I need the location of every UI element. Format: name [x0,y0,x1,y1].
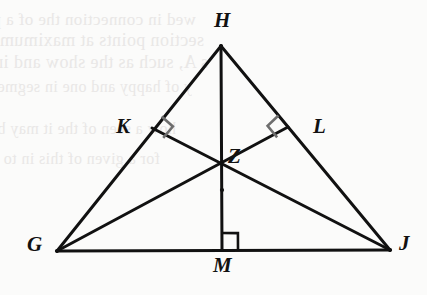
segment-HM [221,46,222,250]
vertex-label-m: M [213,255,232,276]
segment-GL [57,127,288,251]
vertex-label-j: J [399,233,410,254]
vertex-label-z: Z [228,146,241,167]
vertex-label-l: L [313,116,326,137]
segment-GH [57,46,221,251]
vertex-label-k: K [116,116,130,137]
segments-group [57,46,390,251]
vertex-point-h [219,44,223,48]
segment-GJ [57,250,390,251]
right-angle-M [222,233,238,249]
vertex-points-group [55,44,392,253]
vertex-point-g [55,249,59,253]
vertex-label-g: G [27,234,42,255]
triangle-geometry-figure [0,0,427,295]
diagram-page: wed in connection the of a perimetersect… [0,0,427,295]
vertex-label-h: H [214,10,230,31]
vertex-point-j [388,248,392,252]
segment-JK [152,128,390,250]
vertex-point-z [220,188,224,192]
